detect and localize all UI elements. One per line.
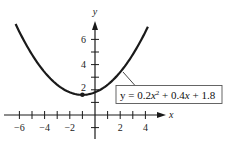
x-tick-label: −2 [64, 122, 75, 133]
y-tick-label: 4 [81, 59, 86, 70]
x-tick-label: 2 [118, 122, 123, 133]
x-axis-label: x [168, 109, 174, 120]
x-tick-label: −6 [14, 122, 25, 133]
y-tick-label: 6 [81, 34, 86, 45]
x-axis: x −6 −4 −2 2 4 [4, 109, 174, 133]
x-tick-label: −4 [39, 122, 50, 133]
y-axis-label: y [92, 6, 98, 17]
vertex-point [80, 93, 84, 97]
x-tick-label: 4 [143, 122, 148, 133]
y-tick-label: 2 [81, 82, 86, 93]
y-axis-arrow-icon [92, 21, 98, 30]
equation-text: y = 0.2x2 + 0.4x + 1.8 [120, 89, 216, 101]
annotation-leader-line [123, 72, 135, 86]
equation-label-box: y = 0.2x2 + 0.4x + 1.8 [116, 86, 222, 104]
parabola-chart: x −6 −4 −2 2 4 y [0, 0, 227, 143]
x-axis-arrow-icon [157, 112, 166, 118]
y-axis: y 2 4 6 [81, 6, 99, 139]
